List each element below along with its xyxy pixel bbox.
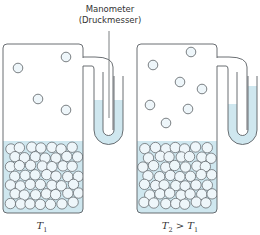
liquid-particle xyxy=(72,152,82,162)
liquid-particle xyxy=(139,179,149,189)
liquid-particle xyxy=(180,162,190,172)
gas-particle xyxy=(183,104,193,114)
liquid-particle xyxy=(30,190,40,200)
liquid-particle xyxy=(41,189,51,199)
liquid-particle xyxy=(47,142,57,152)
liquid-particle xyxy=(207,189,217,199)
manometer-label: Manometer xyxy=(72,4,148,15)
gas-particle xyxy=(161,118,171,128)
liquid-particle xyxy=(30,170,40,180)
liquid-particle xyxy=(10,189,20,199)
liquid-particle xyxy=(180,199,190,209)
liquid-particle xyxy=(35,199,45,209)
gas-particle xyxy=(197,84,207,94)
container-t1 xyxy=(3,44,123,213)
manometer-tube-inner xyxy=(237,72,248,136)
liquid-particle xyxy=(57,199,67,209)
liquid-particle xyxy=(25,160,35,170)
liquid-particle xyxy=(35,179,45,189)
manometer-tube-inner xyxy=(103,72,114,136)
liquid-particle xyxy=(68,197,78,207)
liquid-particle xyxy=(165,170,175,180)
temperature-label-t2: T2 > T1 xyxy=(162,220,198,234)
manometer-liquid xyxy=(94,100,123,145)
gas-particle xyxy=(33,94,43,104)
liquid-particle xyxy=(14,160,24,170)
liquid-particle xyxy=(15,199,25,209)
liquid-particle xyxy=(196,169,206,179)
liquid-particle xyxy=(20,170,30,180)
temperature-label-t1: T1 xyxy=(37,220,48,234)
liquid-particle xyxy=(170,142,180,152)
gas-particle xyxy=(145,100,155,110)
liquid-particle xyxy=(207,170,217,180)
liquid-particle xyxy=(149,198,159,208)
liquid-particle xyxy=(191,180,201,190)
liquid-particle xyxy=(41,169,51,179)
manometer-annotation: Manometer (Druckmesser) xyxy=(72,4,148,26)
liquid-particle xyxy=(62,151,72,161)
liquid-particle xyxy=(45,199,55,209)
gas-particle xyxy=(61,52,71,62)
liquid-particle xyxy=(155,189,165,199)
liquid-particle xyxy=(165,188,175,198)
liquid-particle xyxy=(5,198,15,208)
liquid-particle xyxy=(67,142,77,152)
liquid-particle xyxy=(140,143,150,153)
liquid-particle xyxy=(202,142,212,152)
liquid-particle xyxy=(190,142,200,152)
liquid-particle xyxy=(25,199,35,209)
liquid-particle xyxy=(148,160,158,170)
liquid-particle xyxy=(50,189,60,199)
gas-particle xyxy=(175,77,185,87)
liquid-particle xyxy=(191,197,201,207)
gas-particle xyxy=(148,60,158,70)
liquid-particle xyxy=(139,197,149,207)
gas-particle xyxy=(13,63,23,73)
gas-particle xyxy=(61,105,71,115)
druckmesser-label: (Druckmesser) xyxy=(72,15,148,26)
liquid-particle xyxy=(161,198,171,208)
liquid-particle xyxy=(201,198,211,208)
liquid-particle xyxy=(67,161,77,171)
gas-particle xyxy=(186,47,196,57)
liquid-particle xyxy=(73,188,83,198)
vapor-pressure-diagram xyxy=(0,0,260,235)
liquid-particle xyxy=(25,179,35,189)
liquid-particle xyxy=(169,160,179,170)
liquid-particle xyxy=(184,151,194,161)
container-t2 xyxy=(137,44,257,213)
